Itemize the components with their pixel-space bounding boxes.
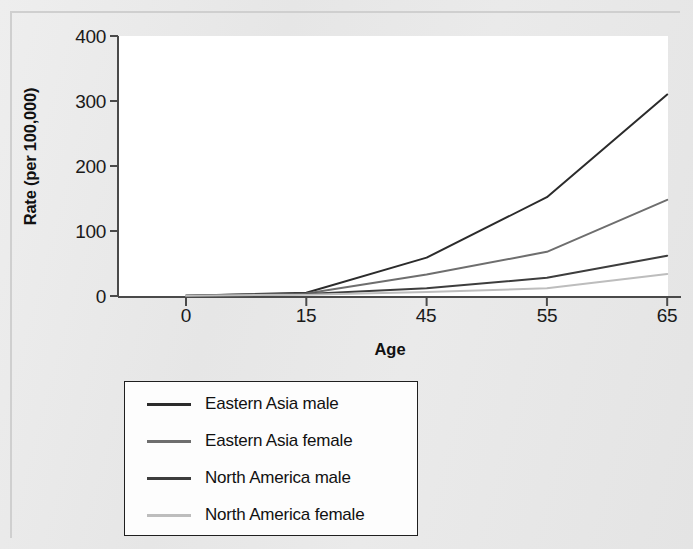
chart-legend: Eastern Asia male Eastern Asia female No… — [124, 381, 418, 536]
legend-label: North America male — [205, 468, 351, 488]
data-series-paths — [186, 95, 667, 296]
legend-label: Eastern Asia male — [205, 394, 339, 414]
series-line — [186, 256, 667, 296]
chart-plot-wrapper: 400 300 200 100 0 0 15 45 55 65 Rate (pe… — [0, 0, 693, 549]
legend-item-3[interactable]: North America female — [125, 501, 419, 529]
x-axis-title: Age — [300, 340, 480, 359]
xtick-label-0: 0 — [156, 305, 216, 327]
legend-line-icon — [147, 403, 191, 406]
ytick-label-0: 0 — [46, 286, 106, 308]
legend-item-1[interactable]: Eastern Asia female — [125, 427, 419, 455]
xtick-label-45: 45 — [396, 305, 456, 327]
ytick-label-400: 400 — [46, 26, 106, 48]
figure: 400 300 200 100 0 0 15 45 55 65 Rate (pe… — [0, 0, 693, 549]
legend-item-0[interactable]: Eastern Asia male — [125, 390, 419, 418]
legend-line-icon — [147, 440, 191, 443]
axes — [110, 36, 681, 306]
ytick-label-200: 200 — [46, 156, 106, 178]
legend-label: Eastern Asia female — [205, 431, 352, 451]
legend-item-2[interactable]: North America male — [125, 464, 419, 492]
legend-line-icon — [147, 514, 191, 517]
series-line — [186, 274, 667, 296]
y-axis-title: Rate (per 100,000) — [21, 57, 40, 257]
xtick-label-65: 65 — [637, 305, 693, 327]
xtick-label-55: 55 — [517, 305, 577, 327]
xtick-label-15: 15 — [276, 305, 336, 327]
series-line — [186, 200, 667, 296]
series-line — [186, 95, 667, 296]
ytick-label-100: 100 — [46, 221, 106, 243]
ytick-label-300: 300 — [46, 91, 106, 113]
legend-label: North America female — [205, 505, 364, 525]
legend-line-icon — [147, 477, 191, 480]
